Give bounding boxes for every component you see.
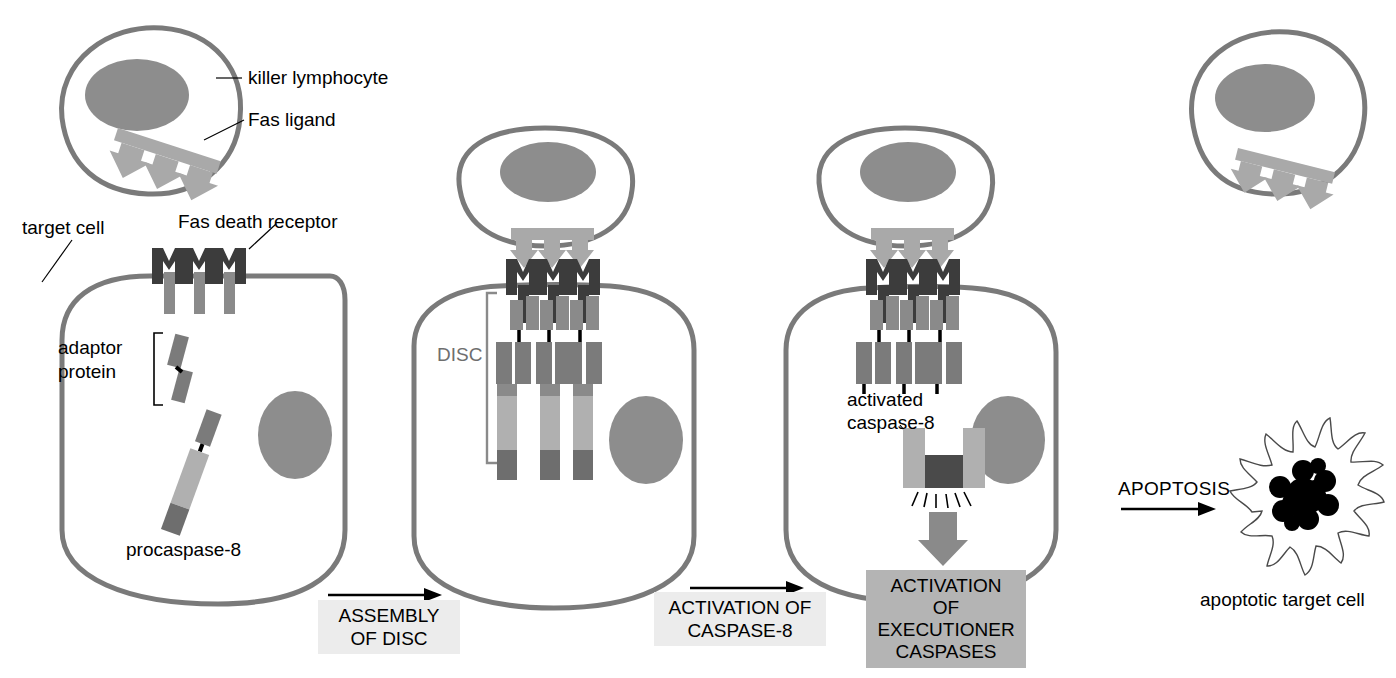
label-fas-death-receptor: Fas death receptor: [178, 210, 337, 233]
label-activated-caspase-8-line1: activated: [847, 388, 923, 411]
apoptosis-arrow: [1121, 502, 1216, 516]
nucleus: [609, 396, 683, 484]
figure-canvas: killer lymphocyte Fas ligand target cell…: [0, 0, 1396, 678]
label-disc: DISC: [437, 344, 482, 366]
nucleus: [500, 142, 596, 202]
label-procaspase-8: procaspase-8: [126, 538, 241, 561]
nucleus: [1215, 64, 1315, 132]
adaptor-complex-3: [856, 296, 962, 394]
label-killer-lymphocyte: killer lymphocyte: [248, 66, 388, 89]
label-adaptor-protein-line1: adaptor: [58, 336, 122, 359]
leader-target-cell: [42, 240, 72, 282]
nucleus: [860, 142, 956, 202]
nucleus: [85, 59, 189, 131]
fas-receptor-group-1: [152, 248, 246, 314]
step-assembly-of-disc: ASSEMBLY OF DISC: [318, 600, 460, 654]
activation-executioner-caspases-box: ACTIVATION OF EXECUTIONER CASPASES: [866, 570, 1026, 668]
nucleus: [258, 391, 332, 479]
pathway-diagram-svg: [0, 0, 1396, 678]
apoptotic-target-cell: [1230, 418, 1384, 575]
label-apoptotic-target-cell: apoptotic target cell: [1200, 588, 1365, 611]
disc-complex-2: [496, 296, 602, 480]
step-activation-of-caspase-8: ACTIVATION OF CASPASE-8: [654, 592, 826, 646]
label-activated-caspase-8-line2: caspase-8: [847, 411, 935, 434]
fas-ligand-3: [870, 228, 954, 268]
label-fas-ligand: Fas ligand: [248, 108, 336, 131]
fas-ligand-2: [510, 228, 594, 268]
label-target-cell: target cell: [22, 216, 104, 239]
label-apoptosis: APOPTOSIS: [1118, 478, 1230, 500]
label-adaptor-protein-line2: protein: [58, 360, 116, 383]
